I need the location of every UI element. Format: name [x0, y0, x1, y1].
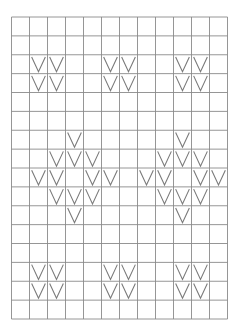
knit-stitch-v-icon	[122, 57, 136, 72]
knit-stitch-v-icon	[86, 170, 100, 185]
knit-stitch-v-icon	[176, 151, 190, 166]
knit-stitch-v-icon	[176, 133, 190, 148]
knit-stitch-v-icon	[32, 76, 46, 91]
grid-lines	[12, 17, 228, 319]
knit-stitch-v-icon	[104, 265, 118, 280]
knitting-chart-grid	[0, 0, 244, 336]
knit-stitch-v-icon	[50, 76, 64, 91]
knit-stitch-v-icon	[50, 57, 64, 72]
knit-stitch-v-icon	[50, 170, 64, 185]
knit-stitch-v-icon	[176, 57, 190, 72]
knit-stitch-v-icon	[194, 76, 208, 91]
knit-stitch-v-icon	[212, 170, 226, 185]
knit-stitch-v-icon	[122, 76, 136, 91]
knit-stitch-v-icon	[50, 265, 64, 280]
knit-stitch-v-icon	[140, 170, 154, 185]
knit-stitch-v-icon	[32, 265, 46, 280]
knit-stitch-v-icon	[176, 265, 190, 280]
knit-stitch-v-icon	[68, 151, 82, 166]
knit-stitch-v-icon	[104, 284, 118, 299]
knit-stitch-v-icon	[32, 170, 46, 185]
knit-stitch-v-icon	[68, 189, 82, 204]
knit-stitch-v-icon	[158, 151, 172, 166]
knit-stitch-v-icon	[104, 76, 118, 91]
knit-stitch-v-icon	[32, 57, 46, 72]
knit-stitch-v-icon	[176, 284, 190, 299]
knit-stitch-v-icon	[194, 57, 208, 72]
knit-stitch-v-icon	[104, 57, 118, 72]
knit-stitch-v-icon	[194, 170, 208, 185]
knit-stitch-v-icon	[50, 189, 64, 204]
knit-stitch-v-icon	[50, 151, 64, 166]
knit-stitch-v-icon	[50, 284, 64, 299]
knit-stitch-v-icon	[176, 189, 190, 204]
knit-stitch-v-icon	[194, 189, 208, 204]
knit-stitch-v-icon	[194, 284, 208, 299]
knit-stitch-v-icon	[86, 151, 100, 166]
knit-stitch-v-icon	[68, 133, 82, 148]
knit-stitch-v-icon	[194, 151, 208, 166]
knit-stitch-v-icon	[158, 189, 172, 204]
knit-stitch-v-icon	[104, 170, 118, 185]
knit-stitch-v-icon	[32, 284, 46, 299]
knit-stitch-v-icon	[122, 265, 136, 280]
knit-stitch-v-icon	[176, 76, 190, 91]
knit-stitch-v-icon	[158, 170, 172, 185]
knit-stitch-v-icon	[194, 265, 208, 280]
knit-stitch-v-icon	[68, 208, 82, 223]
knit-stitch-v-icon	[86, 189, 100, 204]
knit-stitch-v-icon	[176, 208, 190, 223]
knit-stitch-v-icon	[122, 284, 136, 299]
